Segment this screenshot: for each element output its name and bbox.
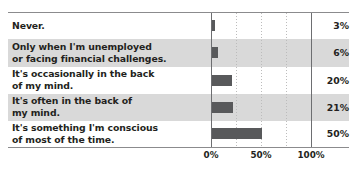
x-tick-label: 50% — [250, 150, 271, 160]
bar — [212, 102, 233, 113]
row-category-line: or facing financial challenges. — [12, 53, 208, 65]
row-category-line: It's something I'm conscious — [12, 122, 208, 134]
x-tick-label: 0% — [204, 150, 219, 160]
row-category-line: of my mind. — [12, 80, 208, 92]
row-category-line: It's occasionally in the back — [12, 68, 208, 80]
row-category-label: It's something I'm consciousof most of t… — [12, 121, 208, 148]
row-category-label: Never. — [12, 13, 208, 39]
gridline-minor-25 — [236, 13, 237, 147]
x-tick-label: 100% — [297, 150, 324, 160]
bar — [212, 128, 262, 139]
bar — [212, 75, 232, 86]
bar — [212, 47, 218, 58]
gridline-minor-75 — [286, 13, 287, 147]
x-axis-tick-labels: 0%50%100% — [0, 150, 357, 166]
row-category-label: It's often in the back ofmy mind. — [12, 94, 208, 121]
row-category-line: my mind. — [12, 107, 208, 119]
row-category-line: Only when I'm unemployed — [12, 41, 208, 53]
chart-bottom-border — [8, 147, 349, 148]
gridline-major-100 — [311, 13, 312, 147]
row-category-label: Only when I'm unemployedor facing financ… — [12, 39, 208, 67]
gridline-minor-50 — [261, 13, 262, 147]
plot-area — [203, 13, 349, 147]
horizontal-bar-chart: Never.3%Only when I'm unemployedor facin… — [0, 0, 357, 171]
row-category-line: It's often in the back of — [12, 95, 208, 107]
bar — [212, 20, 215, 31]
row-category-label: It's occasionally in the backof my mind. — [12, 67, 208, 94]
row-category-line: Never. — [12, 20, 208, 32]
row-category-line: of most of the time. — [12, 134, 208, 146]
